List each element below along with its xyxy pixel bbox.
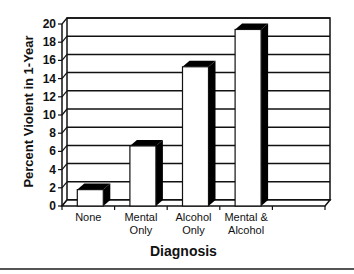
x-category-label: Alcohol: [228, 224, 264, 236]
y-tick-label: 16: [43, 53, 57, 67]
y-tick-label: 6: [49, 144, 56, 158]
bar-side: [261, 23, 268, 206]
x-category-label: Only: [182, 224, 205, 236]
y-tick-label: 0: [49, 199, 56, 213]
x-category-label: Only: [130, 224, 153, 236]
y-axis-label: Percent Violent in 1-Year: [21, 22, 36, 202]
y-tick-label: 8: [49, 126, 56, 140]
bar: [235, 29, 261, 206]
x-category-label: Alcohol: [175, 211, 211, 223]
y-tick-label: 14: [43, 72, 57, 86]
bar-chart: 02468101214161820NoneMentalOnlyAlcoholOn…: [0, 0, 354, 274]
bar: [77, 190, 103, 206]
bar: [183, 67, 209, 206]
x-category-label: None: [75, 211, 101, 223]
x-category-label: Mental: [124, 211, 157, 223]
x-category-label: Mental &: [224, 211, 268, 223]
y-tick-label: 10: [43, 108, 57, 122]
y-tick-label: 18: [43, 35, 57, 49]
bar-side: [156, 140, 163, 206]
y-tick-label: 12: [43, 90, 57, 104]
bar: [130, 146, 156, 206]
y-tick-label: 20: [43, 17, 57, 31]
divider: [0, 268, 354, 270]
bar-side: [209, 61, 216, 206]
x-axis-label: Diagnosis: [150, 243, 217, 259]
y-tick-label: 4: [49, 163, 56, 177]
y-tick-label: 2: [49, 181, 56, 195]
